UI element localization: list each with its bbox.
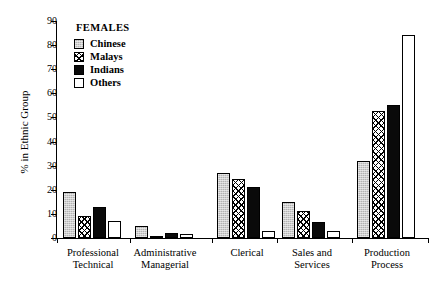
x-axis-tick-mark bbox=[57, 238, 58, 243]
x-axis-tick-mark bbox=[277, 238, 278, 243]
bar bbox=[150, 236, 163, 238]
legend-swatch-icon bbox=[74, 39, 84, 49]
bar bbox=[217, 173, 230, 238]
legend-item: Chinese bbox=[74, 38, 186, 49]
legend-item: Malays bbox=[74, 51, 186, 62]
x-axis-tick-mark bbox=[352, 238, 353, 243]
x-axis-tick-mark bbox=[212, 238, 213, 243]
bar bbox=[372, 111, 385, 238]
bar bbox=[402, 35, 415, 238]
legend-item-label: Malays bbox=[90, 51, 123, 62]
x-axis-category-label: Production Process bbox=[337, 247, 437, 271]
legend-item-label: Chinese bbox=[90, 38, 126, 49]
bar bbox=[297, 211, 310, 238]
bar bbox=[262, 231, 275, 238]
y-axis-tick: 40 bbox=[0, 142, 57, 143]
bar bbox=[165, 233, 178, 238]
y-axis-tick: 60 bbox=[0, 93, 57, 94]
y-axis-tick: 90 bbox=[0, 21, 57, 22]
legend-swatch-icon bbox=[74, 52, 84, 62]
y-axis-tick: 70 bbox=[0, 69, 57, 70]
bar bbox=[232, 179, 245, 238]
bar bbox=[108, 221, 121, 238]
legend-title: FEMALES bbox=[76, 22, 186, 33]
bar bbox=[327, 231, 340, 238]
bar bbox=[357, 161, 370, 238]
y-axis-tick: 0 bbox=[0, 238, 57, 239]
x-axis-tick-mark bbox=[428, 238, 429, 243]
bar bbox=[135, 226, 148, 238]
x-axis-line bbox=[56, 238, 428, 239]
legend-swatch-icon bbox=[74, 78, 84, 88]
bar bbox=[63, 192, 76, 238]
bar bbox=[180, 234, 193, 238]
bar bbox=[247, 187, 260, 238]
y-axis-tick: 30 bbox=[0, 166, 57, 167]
bar-group bbox=[217, 21, 277, 238]
y-axis-tick: 10 bbox=[0, 214, 57, 215]
legend-swatch-icon bbox=[74, 65, 84, 75]
legend-item-label: Indians bbox=[90, 64, 124, 75]
y-axis-tick: 50 bbox=[0, 117, 57, 118]
bar bbox=[282, 202, 295, 238]
legend-item-label: Others bbox=[90, 77, 121, 88]
legend-entries: ChineseMalaysIndiansOthers bbox=[74, 38, 186, 88]
bar-group bbox=[282, 21, 342, 238]
legend: FEMALES ChineseMalaysIndiansOthers bbox=[74, 22, 186, 90]
legend-item: Indians bbox=[74, 64, 186, 75]
y-axis-tick: 20 bbox=[0, 190, 57, 191]
bar bbox=[312, 222, 325, 238]
x-axis-tick-mark bbox=[130, 238, 131, 243]
y-axis-tick: 80 bbox=[0, 45, 57, 46]
legend-item: Others bbox=[74, 77, 186, 88]
bar-chart: % in Ethnic Group 0102030405060708090 Pr… bbox=[0, 0, 441, 284]
bar bbox=[93, 207, 106, 238]
bar-group bbox=[357, 21, 417, 238]
bar bbox=[387, 105, 400, 238]
bar bbox=[78, 216, 91, 238]
